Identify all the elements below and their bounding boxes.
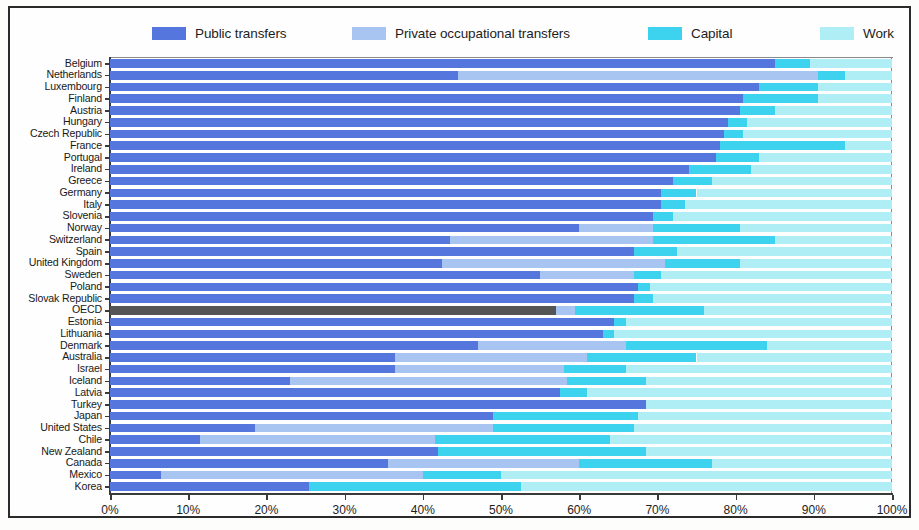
bar-segment-capital	[673, 177, 712, 186]
stacked-bar	[110, 200, 892, 209]
x-axis-tick	[579, 495, 581, 500]
bar-segment-work	[818, 94, 892, 103]
y-axis-labels: BelgiumNetherlandsLuxembourgFinlandAustr…	[0, 58, 106, 493]
chart-page: Public transfers Private occupational tr…	[0, 0, 919, 530]
y-axis-tick	[105, 310, 110, 312]
y-axis-tick	[105, 463, 110, 465]
y-axis-tick	[105, 145, 110, 147]
bar-row	[110, 70, 892, 82]
bar-segment-work	[775, 106, 892, 115]
stacked-bar	[110, 118, 892, 127]
bar-segment-capital	[759, 83, 818, 92]
bar-segment-work	[673, 212, 892, 221]
bar-segment-capital	[614, 318, 626, 327]
y-axis-label-chile: Chile	[79, 434, 102, 446]
bar-row	[110, 187, 892, 199]
x-axis-labels: 0%10%20%30%40%50%60%70%80%90%100%	[0, 503, 919, 521]
stacked-bar	[110, 153, 892, 162]
y-axis-tick	[105, 392, 110, 394]
bar-segment-capital	[626, 341, 767, 350]
bar-segment-work	[712, 459, 892, 468]
bar-segment-private	[388, 459, 580, 468]
y-axis-tick	[105, 239, 110, 241]
y-axis-tick	[105, 228, 110, 230]
bar-segment-public	[110, 83, 759, 92]
stacked-bar	[110, 471, 892, 480]
bar-segment-capital	[560, 388, 587, 397]
y-axis-tick	[105, 157, 110, 159]
bar-segment-public	[110, 94, 743, 103]
y-axis-tick	[105, 122, 110, 124]
legend-label-private-occupational-transfers: Private occupational transfers	[395, 26, 570, 41]
bar-row	[110, 387, 892, 399]
bar-segment-public	[110, 189, 661, 198]
y-axis-tick	[105, 416, 110, 418]
bar-segment-capital	[564, 365, 627, 374]
bar-row	[110, 481, 892, 493]
x-axis-tick	[501, 495, 503, 500]
bar-segment-work	[653, 294, 892, 303]
legend-swatch-public-transfers	[152, 27, 186, 40]
bar-segment-public	[110, 435, 200, 444]
legend-label-public-transfers: Public transfers	[195, 26, 286, 41]
stacked-bar	[110, 412, 892, 421]
bar-segment-public	[110, 59, 775, 68]
bar-segment-work	[661, 271, 892, 280]
stacked-bar	[110, 424, 892, 433]
bar-row	[110, 58, 892, 70]
bar-segment-public	[110, 259, 442, 268]
stacked-bar	[110, 259, 892, 268]
bar-segment-capital	[661, 200, 684, 209]
bar-row	[110, 375, 892, 387]
bar-segment-public	[110, 106, 740, 115]
bar-row	[110, 246, 892, 258]
bar-segment-capital	[720, 141, 845, 150]
bar-segment-work	[626, 318, 892, 327]
bar-row	[110, 93, 892, 105]
stacked-bar	[110, 447, 892, 456]
bar-segment-public	[110, 341, 478, 350]
bar-segment-work	[818, 83, 892, 92]
y-axis-tick	[105, 451, 110, 453]
stacked-bar	[110, 141, 892, 150]
x-axis-tick	[266, 495, 268, 500]
bar-segment-public	[110, 130, 724, 139]
bar-segment-work	[646, 400, 892, 409]
y-axis-tick	[105, 98, 110, 100]
bar-row	[110, 152, 892, 164]
y-axis-tick	[105, 357, 110, 359]
bar-segment-public	[110, 271, 540, 280]
bar-segment-work	[740, 224, 892, 233]
y-axis-tick	[105, 439, 110, 441]
bar-segment-capital	[575, 306, 704, 315]
bar-segment-work	[704, 306, 892, 315]
y-axis-tick	[105, 381, 110, 383]
bar-segment-private	[395, 365, 563, 374]
bar-segment-private	[540, 271, 634, 280]
y-axis-tick	[105, 216, 110, 218]
bar-segment-public	[110, 247, 634, 256]
bar-segment-capital	[728, 118, 748, 127]
bar-segment-public	[110, 224, 579, 233]
bar-segment-public	[110, 71, 458, 80]
bar-row	[110, 352, 892, 364]
bar-segment-work	[646, 447, 892, 456]
bar-segment-work	[634, 424, 892, 433]
bar-row	[110, 234, 892, 246]
y-axis-tick	[105, 181, 110, 183]
bar-row	[110, 411, 892, 423]
y-axis-tick	[105, 75, 110, 77]
y-axis-tick	[105, 251, 110, 253]
bar-segment-public	[110, 353, 395, 362]
bar-segment-public	[110, 306, 556, 315]
bar-segment-capital	[743, 94, 817, 103]
x-axis-label: 20%	[254, 503, 278, 517]
bar-segment-public	[110, 459, 388, 468]
bar-segment-work	[743, 130, 892, 139]
stacked-bar	[110, 130, 892, 139]
bar-segment-work	[845, 141, 892, 150]
x-axis-label: 60%	[567, 503, 591, 517]
stacked-bar	[110, 177, 892, 186]
y-axis-label-switzerland: Switzerland	[49, 234, 102, 246]
stacked-bar	[110, 165, 892, 174]
